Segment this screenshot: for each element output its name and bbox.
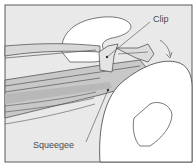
clip-label: Clip xyxy=(153,15,169,24)
wiper-illustration: Clip Squeegee xyxy=(0,0,196,168)
squeegee-label: Squeegee xyxy=(33,141,74,150)
illustration-canvas xyxy=(0,0,196,168)
